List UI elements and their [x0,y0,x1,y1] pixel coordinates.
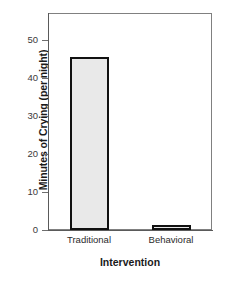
y-axis-tick-label: 40 [27,73,38,83]
y-axis-tick-label: 10 [27,187,38,197]
y-axis-tick [42,40,48,41]
x-axis-category-label: Behavioral [130,234,212,245]
x-axis-line [48,230,213,231]
x-axis-title: Intervention [48,256,212,268]
bar [70,57,109,230]
y-axis-tick [42,116,48,117]
bar [152,225,191,230]
y-axis-tick-label: 0 [33,225,38,235]
bar-chart-figure: Minutes of Crying (per night) 0102030405… [0,0,234,282]
y-axis-tick-label: 30 [27,111,38,121]
x-axis-category-label: Traditional [48,234,130,245]
y-axis-tick [42,230,48,231]
y-axis-tick-label: 20 [27,149,38,159]
y-axis-tick [42,192,48,193]
y-axis-tick [42,78,48,79]
y-axis-line [48,13,49,231]
y-axis-tick-label: 50 [27,35,38,45]
y-axis-tick [42,154,48,155]
